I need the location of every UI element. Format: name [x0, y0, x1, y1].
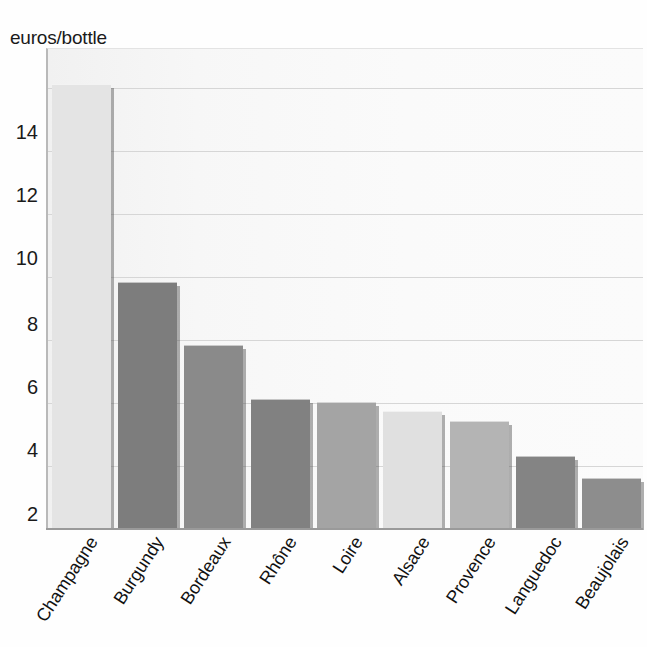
y-tick-6: 6	[0, 376, 38, 399]
bar-shadow	[111, 88, 114, 530]
category-label-text: Alsace	[388, 533, 435, 589]
category-label-text: Languedoc	[501, 533, 567, 618]
y-axis-title: euros/bottle	[10, 27, 107, 49]
category-label-text: Rhône	[255, 533, 301, 589]
category-label-text: Champagne	[32, 533, 103, 626]
y-tick-12: 12	[0, 184, 38, 207]
gridline-8	[48, 277, 643, 278]
bar-chart: euros/bottle 14 12 10 8 6 4 2 ChampagneB…	[0, 0, 647, 647]
y-tick-14: 14	[0, 121, 38, 144]
y-tick-10: 10	[0, 247, 38, 270]
y-tick-4: 4	[0, 439, 38, 462]
y-axis-tick-labels: 14 12 10 8 6 4 2	[0, 48, 38, 529]
y-tick-2: 2	[0, 503, 38, 526]
category-label-text: Beaujolais	[571, 533, 633, 613]
category-label-text: Loire	[329, 533, 368, 578]
gridline-12	[48, 151, 643, 152]
bar-champagne[interactable]	[52, 84, 111, 528]
y-tick-8: 8	[0, 313, 38, 336]
category-label-text: Provence	[442, 533, 501, 608]
category-label-text: Bordeaux	[176, 533, 235, 608]
gridline-14	[48, 88, 643, 89]
x-axis-category-labels: ChampagneBurgundyBordeauxRhôneLoireAlsac…	[0, 533, 647, 647]
category-label-text: Burgundy	[110, 533, 169, 608]
gridline-10	[48, 214, 643, 215]
